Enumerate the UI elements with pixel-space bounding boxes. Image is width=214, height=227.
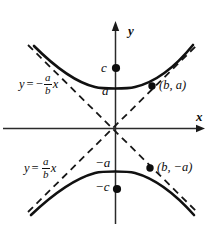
equation-neg-fraction: a b xyxy=(44,72,52,96)
hyperbola-figure: y x c a −a −c (b, a) (b, −a) y = − a b x… xyxy=(0,0,214,227)
equation-pos-variable: x xyxy=(51,162,57,175)
equation-neg-denominator: b xyxy=(44,85,52,97)
equation-neg-sign: − xyxy=(36,78,43,91)
tick-label-c: c xyxy=(101,61,107,74)
equation-asymptote-positive-slope: y = a b x xyxy=(24,156,56,180)
equation-pos-denominator: b xyxy=(42,169,50,181)
x-axis-arrowhead xyxy=(196,125,205,132)
y-axis-arrowhead xyxy=(112,21,119,31)
equation-neg-equals: = xyxy=(27,78,34,91)
equation-neg-variable: x xyxy=(53,78,59,91)
equation-neg-numerator: a xyxy=(44,72,52,84)
tick-label-a: a xyxy=(102,84,109,97)
equation-pos-equals: = xyxy=(32,162,39,175)
focus-lower-dot xyxy=(113,185,121,193)
tick-label-minus-a: −a xyxy=(95,156,110,169)
point-label-b-neg-a: (b, −a) xyxy=(157,161,193,174)
point-b-neg-a-dot xyxy=(146,164,153,171)
equation-pos-fraction: a b xyxy=(42,156,50,180)
y-axis-label: y xyxy=(128,24,134,37)
equation-neg-lhs: y xyxy=(19,78,25,91)
point-label-b-a: (b, a) xyxy=(159,79,186,92)
equation-asymptote-negative-slope: y = − a b x xyxy=(19,72,58,96)
tick-label-minus-c: −c xyxy=(95,180,110,193)
focus-upper-dot xyxy=(112,64,120,72)
x-axis-label: x xyxy=(196,110,203,123)
equation-pos-numerator: a xyxy=(42,156,50,168)
equation-pos-lhs: y xyxy=(24,162,30,175)
point-b-a-dot xyxy=(148,82,155,89)
hyperbola-curves-group xyxy=(31,45,194,215)
